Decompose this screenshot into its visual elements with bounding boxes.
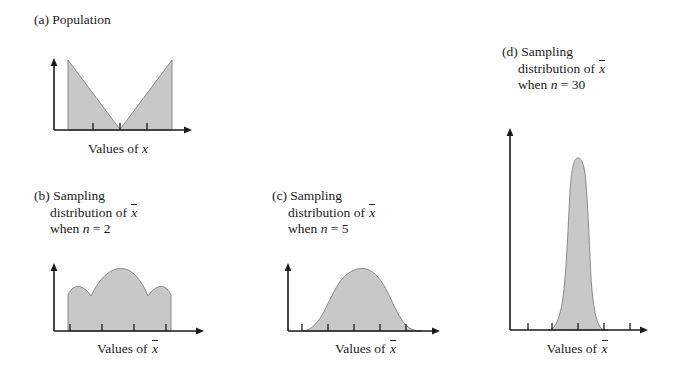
panel-c-x-axis-label: Values of x — [276, 341, 456, 357]
panel-d-area — [548, 158, 608, 330]
panel-b-axis-label-xbar: x — [151, 341, 159, 357]
panel-d-caption: (d) Sampling distribution of x when n = … — [502, 44, 606, 94]
panel-b-line3-value: = 2 — [93, 221, 111, 236]
panel-b-plot — [38, 255, 218, 345]
panel-c-title: Sampling — [290, 188, 342, 203]
panel-d-label: (d) — [502, 44, 518, 59]
panel-c-line3-prefix: when — [288, 221, 317, 236]
panel-d-line2-prefix: distribution of — [518, 61, 595, 76]
panel-a-label: (a) — [34, 12, 49, 27]
panel-b-x-axis-label: Values of x — [38, 341, 218, 357]
panel-b-caption: (b) Sampling distribution of x when n = … — [34, 188, 138, 238]
panel-c-axis-label-prefix: Values of — [335, 341, 386, 356]
panel-d-line3-n: n — [551, 77, 558, 92]
panel-a-population: (a) Population — [34, 12, 111, 29]
panel-b-title-line3: when n = 2 — [34, 221, 138, 238]
panel-b-line3-prefix: when — [50, 221, 79, 236]
panel-d-line2-xbar: x — [598, 61, 606, 78]
panel-c-line3-n: n — [321, 221, 328, 236]
panel-b-line2-prefix: distribution of — [50, 205, 127, 220]
panel-d-line3-value: = 30 — [561, 77, 586, 92]
panel-a-caption: (a) Population — [34, 12, 111, 29]
panel-d-title-line2: distribution of x — [502, 61, 606, 78]
panel-a-axis-label-var: x — [142, 141, 148, 156]
panel-b-label: (b) — [34, 188, 50, 203]
panel-a-x-axis-label: Values of x — [38, 141, 198, 157]
panel-c-label: (c) — [272, 188, 287, 203]
panel-d-title-line3: when n = 30 — [502, 77, 606, 94]
panel-c-y-axis-arrow-icon — [285, 263, 292, 271]
panel-c-axis-label-xbar: x — [389, 341, 397, 357]
panel-b-svg — [38, 255, 218, 345]
panel-d-plot — [490, 118, 665, 343]
panel-d-y-axis-arrow-icon — [507, 128, 514, 136]
panel-d-svg — [490, 118, 665, 343]
panel-c-line2-prefix: distribution of — [288, 205, 365, 220]
panel-b-line2-xbar: x — [130, 205, 138, 222]
panel-c-x-axis-arrow-icon — [432, 328, 440, 335]
panel-b-area — [68, 269, 171, 331]
panel-d-axis-label-xbar: x — [601, 341, 609, 357]
panel-a-y-axis-arrow-icon — [51, 58, 58, 66]
panel-c-caption: (c) Sampling distribution of x when n = … — [272, 188, 376, 238]
panel-c-plot — [276, 255, 456, 345]
panel-c-line3-value: = 5 — [331, 221, 349, 236]
panel-d-sampling-n30: (d) Sampling distribution of x when n = … — [502, 44, 606, 94]
panel-a-x-axis-arrow-icon — [184, 127, 192, 134]
panel-b-sampling-n2: (b) Sampling distribution of x when n = … — [34, 188, 138, 238]
panel-a-plot — [38, 46, 198, 146]
panel-d-x-axis-arrow-icon — [640, 327, 648, 334]
panel-a-title: Population — [52, 12, 111, 27]
panel-a-svg — [38, 46, 198, 146]
panel-d-title: Sampling — [521, 44, 573, 59]
panel-c-line2-xbar: x — [368, 205, 376, 222]
panel-c-sampling-n5: (c) Sampling distribution of x when n = … — [272, 188, 376, 238]
panel-b-x-axis-arrow-icon — [196, 328, 204, 335]
panel-a-area — [68, 60, 172, 130]
panel-d-axis-label-prefix: Values of — [547, 341, 598, 356]
panel-b-title: Sampling — [53, 188, 105, 203]
panel-d-line3-prefix: when — [518, 77, 547, 92]
panel-c-title-line3: when n = 5 — [272, 221, 376, 238]
panel-d-x-axis-label: Values of x — [490, 341, 665, 357]
panel-b-title-line2: distribution of x — [34, 205, 138, 222]
panel-b-line3-n: n — [83, 221, 90, 236]
panel-c-svg — [276, 255, 456, 345]
panel-b-y-axis-arrow-icon — [51, 263, 58, 271]
panel-a-axis-label-prefix: Values of — [88, 141, 139, 156]
panel-c-title-line2: distribution of x — [272, 205, 376, 222]
panel-c-area — [302, 268, 422, 331]
panel-b-axis-label-prefix: Values of — [97, 341, 148, 356]
